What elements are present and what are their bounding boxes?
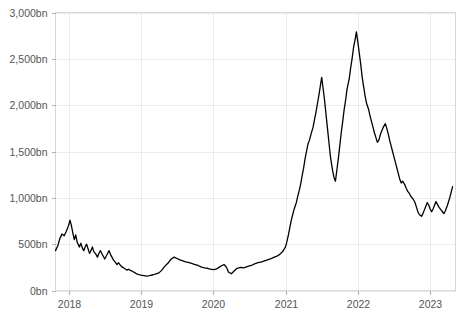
line-chart: 0bn500bn1,000bn1,500bn2,000bn2,500bn3,00…: [0, 0, 464, 323]
x-tick-label-3: 2021: [275, 298, 299, 310]
y-tick-label-6: 3,000bn: [10, 7, 48, 19]
x-tick-label-0: 2018: [58, 298, 82, 310]
x-tick-label-5: 2023: [419, 298, 443, 310]
x-tick-label-4: 2022: [347, 298, 371, 310]
x-tick-label-1: 2019: [130, 298, 154, 310]
y-tick-label-0: 0bn: [30, 285, 48, 297]
y-tick-label-4: 2,000bn: [10, 99, 48, 111]
y-tick-label-2: 1,000bn: [10, 192, 48, 204]
y-tick-label-1: 500bn: [18, 238, 47, 250]
chart-container: 0bn500bn1,000bn1,500bn2,000bn2,500bn3,00…: [0, 0, 464, 323]
x-tick-label-2: 2020: [202, 298, 226, 310]
y-tick-label-5: 2,500bn: [10, 53, 48, 65]
y-tick-label-3: 1,500bn: [10, 146, 48, 158]
